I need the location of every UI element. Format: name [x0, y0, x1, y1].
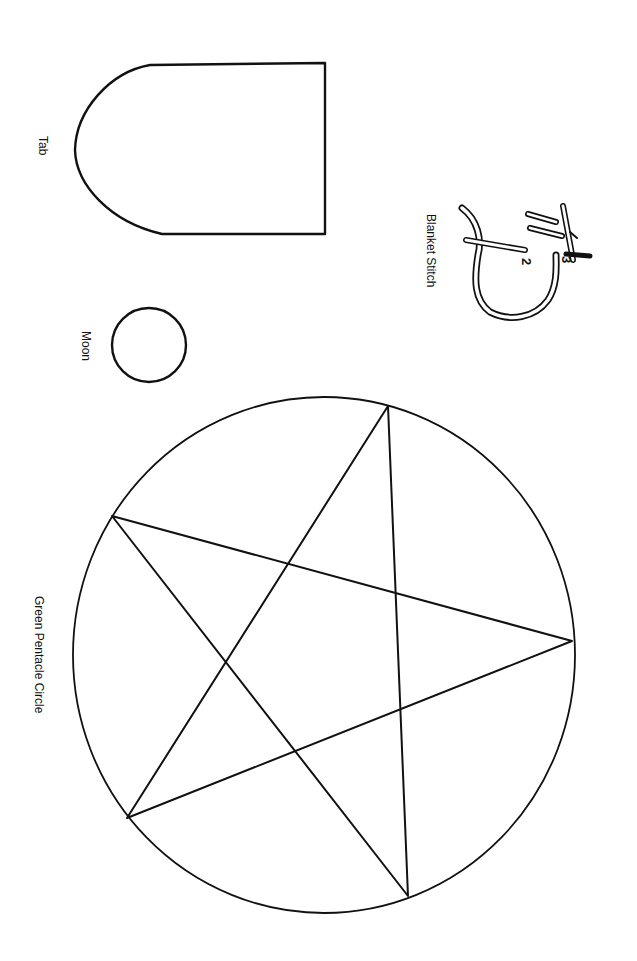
stitch-number-3: 3 [559, 256, 574, 263]
tab-shape [75, 63, 325, 234]
blanket-stitch-label: Blanket Stitch [424, 214, 438, 287]
moon-label: Moon [79, 331, 93, 361]
tab-label: Tab [36, 136, 50, 155]
moon-shape [112, 308, 186, 382]
pentacle-label: Green Pentacle Circle [32, 596, 46, 713]
pattern-sheet [0, 0, 637, 961]
pentacle-circle [73, 397, 575, 913]
pentagram-star [112, 406, 572, 896]
stitch-number-2: 2 [519, 258, 534, 265]
